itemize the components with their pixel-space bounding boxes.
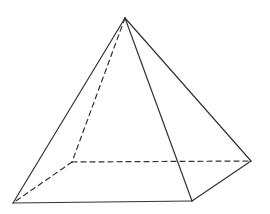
pyramid-diagram <box>0 0 270 214</box>
diagram-background <box>0 0 270 214</box>
